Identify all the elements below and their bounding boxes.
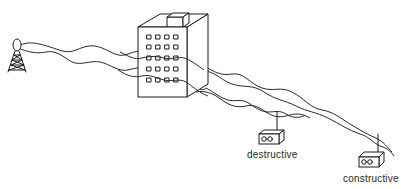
- constructive-label: constructive: [343, 173, 399, 184]
- multipath-diagram: [0, 0, 412, 189]
- constructive-receiver: [359, 134, 384, 167]
- office-building-icon: [138, 13, 208, 97]
- destructive-label: destructive: [247, 149, 298, 160]
